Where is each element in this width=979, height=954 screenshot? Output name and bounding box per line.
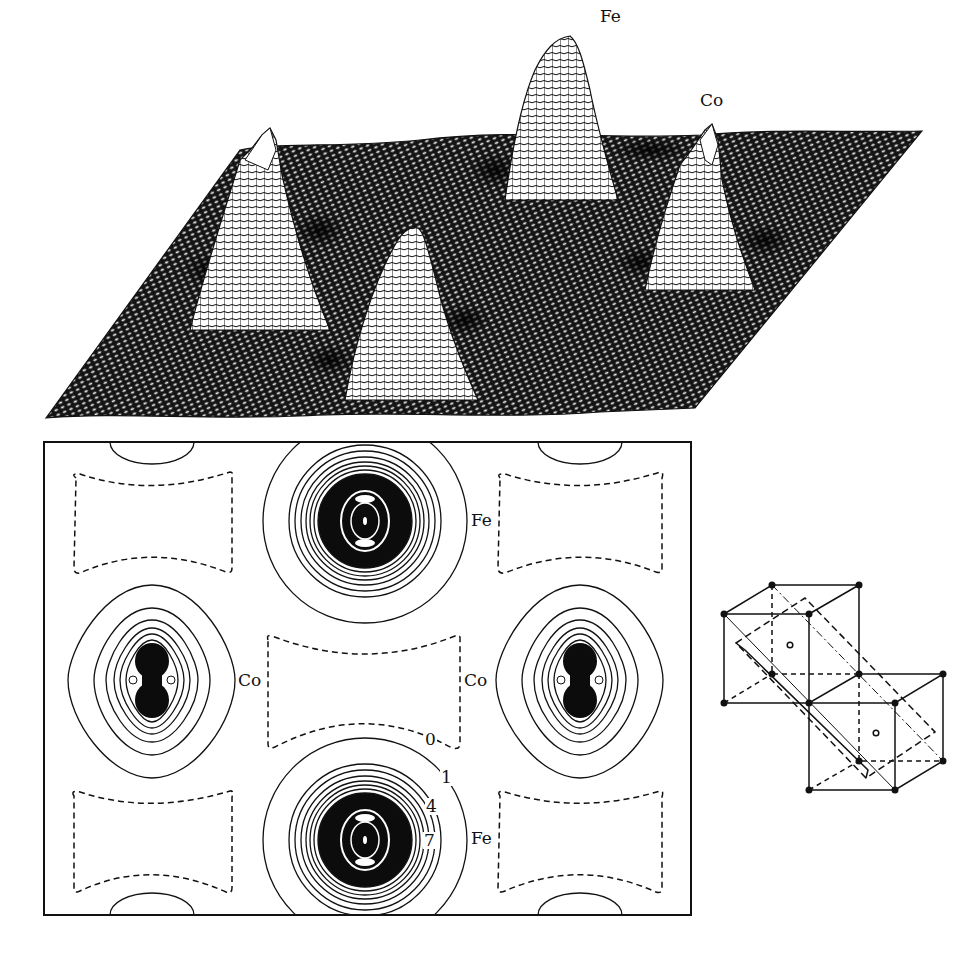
- contour-map-graphic: [0, 430, 700, 930]
- atom-label-fe-top: Fe: [470, 512, 493, 529]
- atom-label-fe-bottom: Fe: [470, 830, 493, 847]
- contour-value-4: 4: [425, 798, 438, 815]
- surface-plot: Fe Co: [0, 0, 979, 430]
- peak-label-co: Co: [699, 92, 724, 109]
- atom-label-co-left: Co: [237, 672, 262, 689]
- crystal-structure-diagram: [700, 560, 960, 820]
- crystal-structure-graphic: [700, 560, 960, 820]
- peak-label-fe: Fe: [599, 8, 622, 25]
- contour-map: Fe Co Co Fe 0 1 4 7: [0, 430, 700, 930]
- contour-value-0: 0: [424, 731, 437, 748]
- contour-value-1: 1: [440, 769, 453, 786]
- peak-fe-back: [505, 36, 618, 200]
- surface-plot-graphic: [0, 0, 979, 430]
- atom-label-co-right: Co: [463, 672, 488, 689]
- contour-value-7: 7: [423, 832, 436, 849]
